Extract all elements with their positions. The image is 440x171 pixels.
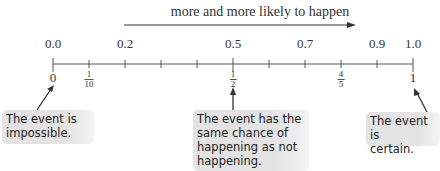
fraction-denominator: 10 <box>85 80 94 89</box>
fraction-label-one-half: 1 2 <box>230 70 237 89</box>
fraction-label-zero: 0 <box>50 70 57 86</box>
callout-even-chance: The event has the same chance of happeni… <box>193 110 309 171</box>
callout-arrow-impossible-icon <box>37 85 54 110</box>
callout-text-line: happening as not <box>197 140 305 154</box>
decimal-label-1-0: 1.0 <box>405 36 421 52</box>
decimal-label-0-0: 0.0 <box>45 36 61 52</box>
decimal-label-0-9: 0.9 <box>369 36 385 52</box>
fraction-denominator: 2 <box>230 80 237 89</box>
callout-arrow-even-chance-icon <box>230 87 236 110</box>
decimal-label-0-5: 0.5 <box>225 36 241 52</box>
callout-text-line: same chance of <box>197 126 305 140</box>
callout-certain: The event is certain. <box>366 112 440 146</box>
callout-text-line: happening. <box>197 154 305 168</box>
fraction-label-four-fifths: 4 5 <box>338 70 345 89</box>
callout-text-line: The event has the <box>197 112 305 126</box>
decimal-label-0-7: 0.7 <box>297 36 313 52</box>
callout-text-line: impossible. <box>6 126 90 140</box>
fraction-denominator: 5 <box>338 80 345 89</box>
callout-text-line: The event is <box>370 114 436 142</box>
fraction-label-one: 1 <box>410 70 417 86</box>
callout-text-line: The event is <box>6 112 90 126</box>
decimal-label-0-2: 0.2 <box>117 36 133 52</box>
callout-impossible: The event is impossible. <box>2 110 94 144</box>
callout-arrow-certain-icon <box>414 88 428 114</box>
fraction-label-one-tenth: 1 10 <box>85 70 94 89</box>
direction-arrow-icon <box>124 22 356 28</box>
callout-text-line: certain. <box>370 142 436 156</box>
